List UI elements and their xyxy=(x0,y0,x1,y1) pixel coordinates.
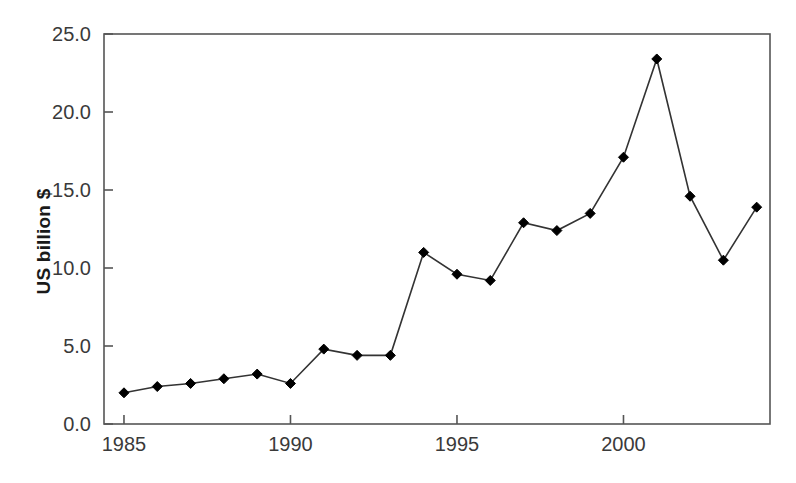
data-point-marker xyxy=(552,226,562,236)
data-point-marker xyxy=(485,275,495,285)
data-point-marker xyxy=(352,350,362,360)
y-tick-label: 5.0 xyxy=(63,335,91,357)
data-point-marker xyxy=(519,218,529,228)
data-point-marker xyxy=(685,191,695,201)
y-tick-label: 15.0 xyxy=(52,179,91,201)
plot-frame xyxy=(104,34,770,424)
chart-figure: US billion $ 0.05.010.015.020.025.0 1985… xyxy=(0,0,796,483)
data-point-marker xyxy=(452,269,462,279)
y-tick-label: 10.0 xyxy=(52,257,91,279)
series-line xyxy=(124,59,757,393)
data-point-marker xyxy=(186,378,196,388)
data-point-marker xyxy=(219,374,229,384)
x-tick-label: 1995 xyxy=(435,433,480,455)
x-axis-ticks: 1985199019952000 xyxy=(102,415,646,455)
data-point-marker xyxy=(385,350,395,360)
x-tick-label: 2000 xyxy=(601,433,646,455)
y-tick-label: 0.0 xyxy=(63,413,91,435)
data-point-marker xyxy=(718,255,728,265)
y-tick-label: 20.0 xyxy=(52,101,91,123)
data-point-marker xyxy=(652,54,662,64)
y-tick-label: 25.0 xyxy=(52,23,91,45)
data-point-marker xyxy=(752,202,762,212)
line-chart-plot: 0.05.010.015.020.025.0 1985199019952000 xyxy=(0,0,796,483)
x-tick-label: 1985 xyxy=(102,433,147,455)
data-point-marker xyxy=(119,388,129,398)
data-point-marker xyxy=(152,382,162,392)
series-markers xyxy=(119,54,762,398)
x-tick-label: 1990 xyxy=(268,433,313,455)
data-point-marker xyxy=(252,369,262,379)
data-point-marker xyxy=(419,247,429,257)
data-point-marker xyxy=(585,208,595,218)
data-point-marker xyxy=(618,152,628,162)
